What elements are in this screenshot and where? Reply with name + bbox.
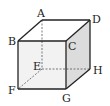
vertex-label-C: C — [68, 40, 76, 53]
edge-AB — [18, 20, 42, 41]
vertex-label-H: H — [93, 64, 103, 77]
vertex-label-F: F — [8, 84, 16, 97]
vertex-label-E: E — [33, 60, 41, 73]
vertex-label-B: B — [8, 35, 16, 48]
vertex-label-A: A — [36, 7, 46, 20]
vertex-label-G: G — [62, 92, 71, 105]
cube-diagram: A B C D E F G H — [0, 0, 110, 106]
vertex-label-D: D — [92, 13, 101, 26]
